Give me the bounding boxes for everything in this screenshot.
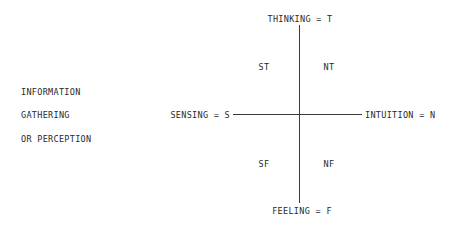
side-label-line-2: GATHERING	[21, 111, 70, 120]
axis-label-thinking: THINKING = T	[267, 15, 332, 24]
quadrant-label-nt: NT	[324, 63, 335, 72]
quadrant-label-sf: SF	[259, 160, 270, 169]
axis-label-feeling: FEELING = F	[272, 207, 332, 216]
axis-label-sensing: SENSING = S	[170, 111, 230, 120]
side-label-line-3: OR PERCEPTION	[21, 135, 91, 144]
side-label-line-1: INFORMATION	[21, 88, 81, 97]
horizontal-axis-line	[233, 114, 362, 115]
quadrant-label-st: ST	[259, 63, 270, 72]
quadrant-label-nf: NF	[324, 160, 335, 169]
axis-label-intuition: INTUITION = N	[365, 111, 435, 120]
